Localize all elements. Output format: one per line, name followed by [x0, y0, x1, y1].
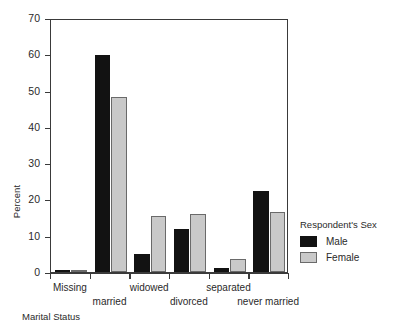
- y-axis-spine: [50, 19, 51, 274]
- bar-married-female: [111, 97, 127, 272]
- bar-widowed-female: [151, 216, 167, 272]
- x-tick-label: never married: [218, 297, 318, 307]
- x-tick-mark: [209, 274, 210, 279]
- y-tick-label: 0: [10, 267, 40, 278]
- legend-swatch-female-icon: [300, 252, 317, 263]
- plot-area: [50, 19, 288, 273]
- bar-separated-female: [230, 259, 246, 272]
- legend-swatch-male-icon: [300, 236, 317, 247]
- x-tick-mark: [248, 274, 249, 279]
- bar-never-married-female: [270, 212, 286, 272]
- x-tick-mark: [288, 274, 289, 279]
- x-tick-mark: [129, 274, 130, 279]
- bar-never-married-male: [253, 191, 269, 272]
- bar-missing-female: [71, 270, 87, 272]
- legend-item-female: Female: [300, 252, 396, 263]
- bar-married-male: [95, 55, 111, 272]
- bar-separated-male: [214, 268, 230, 272]
- x-axis-title: Marital Status: [22, 311, 80, 322]
- bar-divorced-male: [174, 229, 190, 272]
- bar-missing-male: [55, 270, 71, 272]
- y-tick-label: 50: [10, 86, 40, 97]
- y-tick-label: 40: [10, 122, 40, 133]
- bar-divorced-female: [190, 214, 206, 272]
- legend: Respondent's Sex Male Female: [300, 219, 396, 268]
- x-tick-mark: [50, 274, 51, 279]
- bar-widowed-male: [134, 254, 150, 272]
- legend-item-male: Male: [300, 236, 396, 247]
- y-tick-label: 20: [10, 194, 40, 205]
- y-tick-label: 60: [10, 49, 40, 60]
- x-tick-label: separated: [179, 283, 279, 293]
- x-tick-mark: [169, 274, 170, 279]
- y-tick-label: 70: [10, 13, 40, 24]
- bar-chart: Percent 010203040506070 Missingmarriedwi…: [0, 0, 396, 325]
- legend-label-male: Male: [326, 236, 348, 247]
- legend-title: Respondent's Sex: [300, 219, 396, 230]
- y-tick-label: 10: [10, 231, 40, 242]
- x-tick-mark: [90, 274, 91, 279]
- legend-label-female: Female: [326, 252, 359, 263]
- y-tick-label: 30: [10, 158, 40, 169]
